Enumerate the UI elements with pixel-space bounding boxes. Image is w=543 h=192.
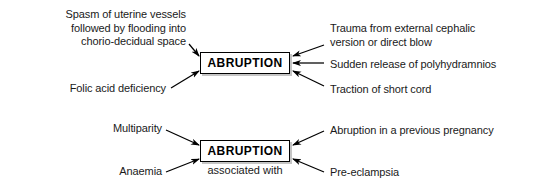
- cause-label-traction-short-cord: Traction of short cord: [330, 83, 530, 97]
- node-abruption-associations-caption: associated with: [195, 164, 295, 177]
- arrow-trauma-to-abruption: [293, 45, 324, 56]
- assoc-label-pre-eclampsia: Pre-eclampsia: [330, 166, 490, 180]
- arrow-short-cord-to-abruption: [293, 71, 324, 86]
- cause-label-folic-acid-deficiency: Folic acid deficiency: [8, 82, 166, 96]
- arrow-previous-abruption-to-abruption: [293, 131, 324, 145]
- cause-label-trauma-external-cephalic-version: Trauma from external cephalic version or…: [330, 22, 540, 49]
- arrow-multiparity-to-abruption: [166, 130, 199, 145]
- abruption-concept-diagram: Spasm of uterine vessels followed by flo…: [0, 0, 543, 192]
- node-abruption-associations-label: ABRUPTION: [208, 144, 283, 158]
- node-abruption-associations: ABRUPTION: [200, 140, 290, 162]
- node-abruption-causes: ABRUPTION: [200, 52, 290, 74]
- arrow-pre-eclampsia-to-abruption: [293, 159, 324, 172]
- node-abruption-causes-label: ABRUPTION: [208, 56, 283, 70]
- arrow-folic-acid-to-abruption: [171, 71, 199, 88]
- cause-label-spasm-uterine-vessels: Spasm of uterine vessels followed by flo…: [8, 8, 186, 49]
- arrow-spasm-to-abruption: [189, 44, 199, 56]
- assoc-label-anaemia: Anaemia: [40, 165, 162, 179]
- cause-label-sudden-release-polyhydramnios: Sudden release of polyhydramnios: [330, 58, 542, 72]
- assoc-label-previous-abruption: Abruption in a previous pregnancy: [330, 124, 542, 138]
- assoc-label-multiparity: Multiparity: [40, 122, 162, 136]
